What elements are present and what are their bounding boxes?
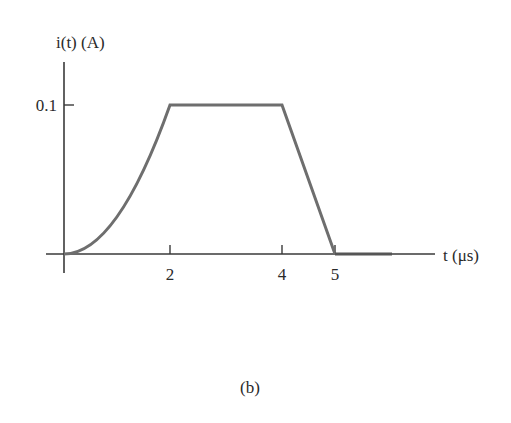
- y-axis-label: i(t) (A): [56, 33, 105, 52]
- x-axis-label: t (μs): [443, 246, 479, 265]
- x-tick-label-2: 2: [166, 265, 175, 284]
- x-tick-label-4: 4: [278, 265, 287, 284]
- current-waveform-chart: 0.1 2 4 5 i(t) (A) t (μs) (b): [0, 0, 511, 423]
- figure-caption: (b): [240, 378, 260, 397]
- x-tick-label-5: 5: [331, 265, 340, 284]
- y-tick-label-0.1: 0.1: [36, 96, 57, 115]
- current-waveform-curve: [64, 105, 335, 254]
